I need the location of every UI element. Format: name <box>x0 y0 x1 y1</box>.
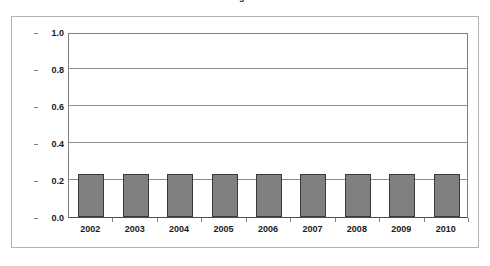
bar-2002[interactable] <box>78 174 104 217</box>
bar-2010[interactable] <box>434 174 460 217</box>
x-axis-tick-labels: 200220032004200520062007200820092010 <box>68 224 468 238</box>
bar-2005[interactable] <box>212 174 238 217</box>
y-axis-tick-mark <box>34 218 38 219</box>
x-axis-tick-mark <box>379 218 380 222</box>
x-axis-tick-mark <box>468 218 469 222</box>
chart-figure: Figure Increase in MMBtu/ks 0.00.20.40.6… <box>0 0 490 266</box>
y-axis-tick-mark <box>34 33 38 34</box>
x-axis-tick-label: 2003 <box>112 224 156 235</box>
y-axis-tick-mark <box>34 107 38 108</box>
gridline <box>69 105 467 106</box>
y-axis-tick-label: 0.2 <box>38 177 64 186</box>
x-axis-tick-mark <box>157 218 158 222</box>
x-axis-tick-mark <box>290 218 291 222</box>
x-axis-tick-label: 2006 <box>246 224 290 235</box>
y-axis-tick-mark <box>34 70 38 71</box>
y-axis-tick-mark <box>34 181 38 182</box>
y-axis-tick-labels: 0.00.20.40.60.81.0 <box>38 33 64 218</box>
x-axis-tick-mark <box>424 218 425 222</box>
x-axis-tick-label: 2007 <box>290 224 334 235</box>
y-axis-title-container: Increase in MMBtu/ks <box>18 33 38 218</box>
x-axis-tick-mark <box>246 218 247 222</box>
x-axis-tick-mark <box>112 218 113 222</box>
x-axis-tick-mark <box>335 218 336 222</box>
bar-2007[interactable] <box>300 174 326 217</box>
x-axis-tick-label: 2005 <box>201 224 245 235</box>
y-axis-tick-label: 1.0 <box>38 29 64 38</box>
y-axis-tick-mark <box>34 144 38 145</box>
bar-2008[interactable] <box>345 174 371 217</box>
x-axis-tick-label: 2008 <box>335 224 379 235</box>
bar-2004[interactable] <box>167 174 193 217</box>
x-axis-tick-label: 2009 <box>379 224 423 235</box>
bar-2009[interactable] <box>389 174 415 217</box>
x-axis-tick-label: 2002 <box>68 224 112 235</box>
y-axis-tick-label: 0.8 <box>38 66 64 75</box>
plot-area <box>68 33 468 218</box>
y-axis-tick-label: 0.6 <box>38 103 64 112</box>
gridline <box>69 142 467 143</box>
x-axis-tick-label: 2010 <box>424 224 468 235</box>
y-axis-tick-label: 0.0 <box>38 214 64 223</box>
x-axis-tick-mark <box>201 218 202 222</box>
bar-2006[interactable] <box>256 174 282 217</box>
chart-title: Figure <box>0 0 490 2</box>
gridline <box>69 68 467 69</box>
y-axis-tick-label: 0.4 <box>38 140 64 149</box>
x-axis-tick-label: 2004 <box>157 224 201 235</box>
bar-2003[interactable] <box>123 174 149 217</box>
